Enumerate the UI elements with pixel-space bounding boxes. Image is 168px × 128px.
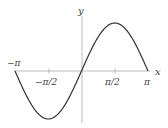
tick-label-neg-pi: −π	[7, 58, 22, 68]
x-axis-label: x	[155, 66, 161, 77]
tick-label-half-pi: π/2	[104, 77, 120, 87]
sine-plot: y x −π −π/2 π/2 π	[0, 0, 168, 128]
tick-label-pi: π	[143, 77, 151, 87]
y-axis-label: y	[77, 5, 84, 16]
tick-label-neg-half-pi: −π/2	[35, 77, 57, 87]
